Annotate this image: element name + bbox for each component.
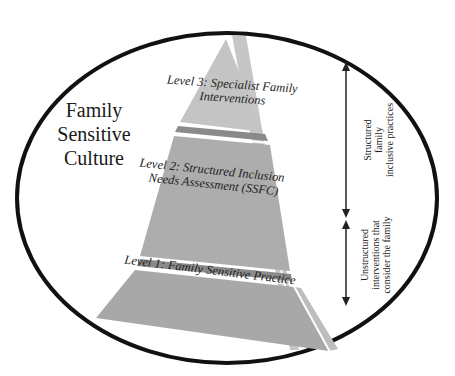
unstructured-line-3: consider the family — [381, 216, 392, 293]
culture-label-line-3: Culture — [64, 147, 124, 169]
pyramid-tier-level-2 — [140, 136, 290, 271]
unstructured-range-arrow — [342, 220, 350, 306]
arrow-head-down-icon — [342, 297, 350, 306]
structured-line-1: Structured — [362, 119, 373, 161]
culture-label-line-2: Sensitive — [57, 123, 130, 145]
unstructured-line-2: interventions that — [370, 220, 381, 290]
arrow-head-up-icon — [342, 220, 350, 229]
unstructured-line-1: Unstructured — [359, 229, 370, 281]
structured-line-3: inclusive practices — [384, 103, 395, 177]
structured-line-2: family — [373, 127, 384, 153]
structured-annotation: Structured family inclusive practices — [362, 103, 395, 177]
arrow-head-down-icon — [342, 209, 350, 218]
culture-label-line-1: Family — [66, 99, 123, 122]
level-3-label: Level 3: Specialist Family Interventions — [165, 73, 299, 110]
family-sensitive-pyramid-diagram: Level 3: Specialist Family Interventions… — [0, 0, 455, 376]
culture-label: Family Sensitive Culture — [57, 99, 130, 169]
unstructured-annotation: Unstructured interventions that consider… — [359, 216, 392, 293]
structured-range-arrow — [342, 62, 350, 218]
diagram-canvas: Level 3: Specialist Family Interventions… — [0, 0, 455, 376]
